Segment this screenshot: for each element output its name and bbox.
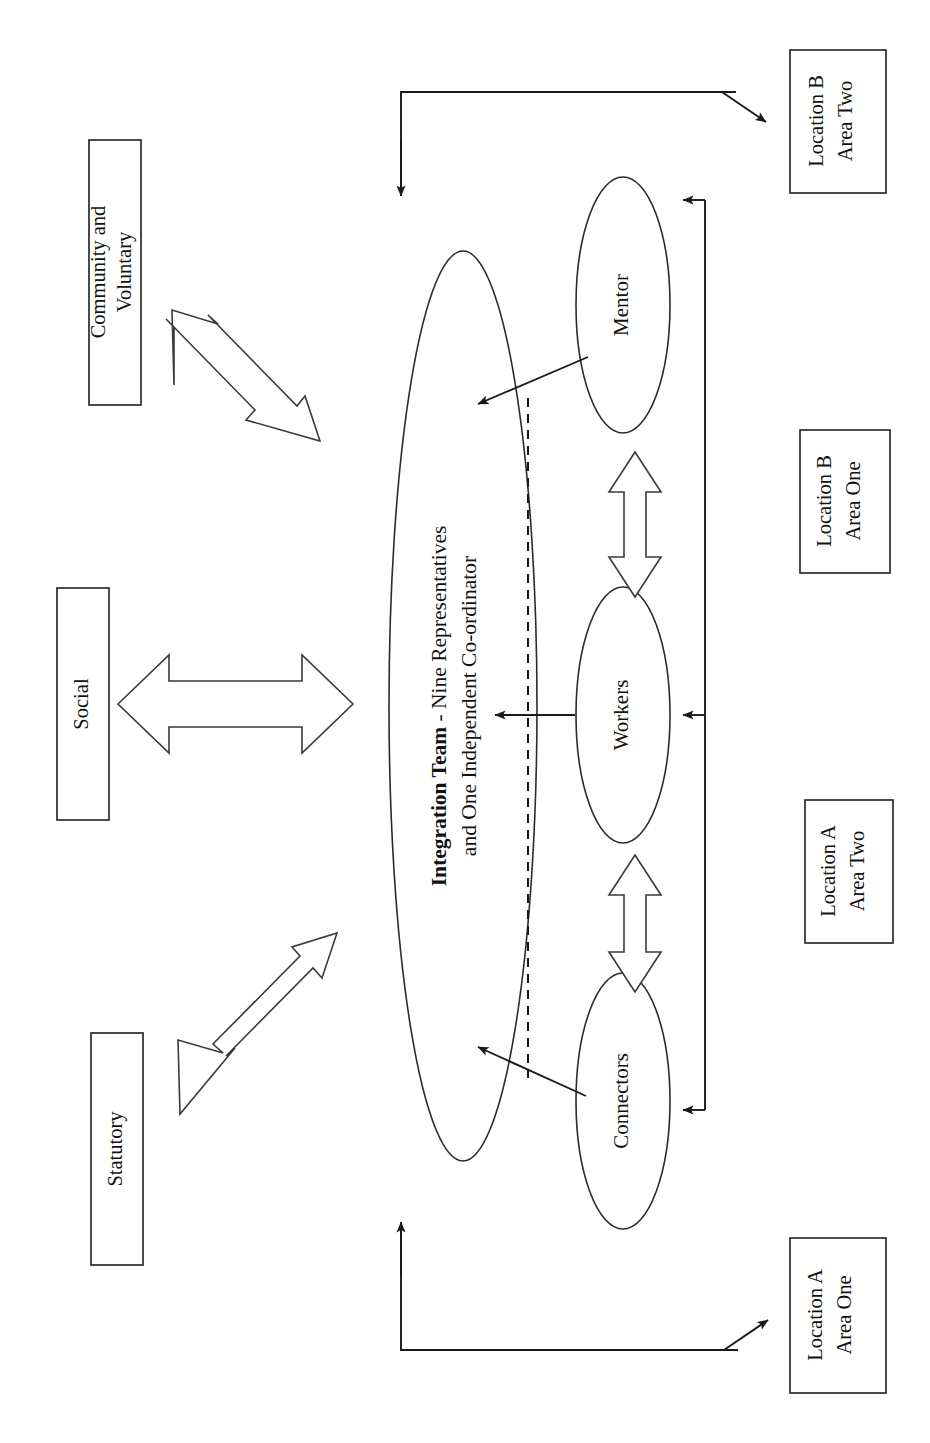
- sector-label-line1: Community and: [87, 206, 110, 339]
- integration-team-label-line2: and One Independent Co-ordinator: [457, 556, 481, 856]
- location-label-line2: Area One: [833, 1275, 855, 1354]
- role-node-mentor[interactable]: Mentor: [576, 177, 670, 433]
- location-label-line2: Area One: [842, 461, 864, 540]
- location-label-line2: Area Two: [834, 81, 856, 162]
- location-label-line1: Location B: [805, 75, 827, 167]
- location-box-location-a-area-two[interactable]: Location A Area Two: [805, 800, 893, 943]
- location-box-location-b-area-one[interactable]: Location B Area One: [800, 430, 890, 573]
- sector-box-statutory[interactable]: Statutory: [91, 1033, 143, 1265]
- block-arrow-community-to-team: [166, 310, 320, 441]
- location-label-line2: Area Two: [846, 831, 868, 912]
- role-node-workers[interactable]: Workers: [576, 587, 670, 843]
- sector-label-line2: Voluntary: [113, 231, 136, 312]
- route-bottom-spine: [401, 1228, 738, 1350]
- diagram-svg: Integration Team - Nine Representatives …: [0, 0, 930, 1443]
- diagram-canvas: Integration Team - Nine Representatives …: [0, 0, 930, 1443]
- location-label-line1: Location A: [817, 825, 839, 917]
- block-arrow-social-to-team: [118, 655, 353, 753]
- sector-label-line1: Social: [70, 678, 92, 730]
- sector-label-line1: Statutory: [104, 1111, 127, 1187]
- role-node-connectors[interactable]: Connectors: [576, 973, 670, 1229]
- location-label-line1: Location A: [804, 1269, 826, 1361]
- block-arrow-statutory-to-team: [178, 933, 337, 1114]
- role-label-mentor: Mentor: [609, 274, 633, 336]
- route-bottom-arrow-to-location-a-area-one: [724, 1320, 768, 1350]
- sector-box-community-and-voluntary[interactable]: Community and Voluntary: [87, 140, 141, 405]
- role-label-workers: Workers: [609, 680, 633, 751]
- location-box-location-a-area-one[interactable]: Location A Area One: [790, 1238, 886, 1393]
- sector-box-social[interactable]: Social: [57, 588, 109, 820]
- integration-team-label-line1: Integration Team - Nine Representatives: [427, 526, 451, 887]
- location-box-location-b-area-two[interactable]: Location B Area Two: [790, 50, 886, 193]
- double-arrow-workers-connectors: [609, 855, 661, 992]
- route-top-spine: [401, 92, 736, 190]
- role-label-connectors: Connectors: [609, 1053, 633, 1149]
- location-label-line1: Location B: [813, 455, 835, 547]
- route-top-arrow-to-location-b-area-two: [722, 92, 766, 122]
- double-arrow-mentor-workers: [609, 452, 661, 597]
